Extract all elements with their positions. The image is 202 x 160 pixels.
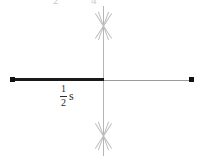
horizontal-axis-right [104, 80, 192, 81]
x-cross-mark-top [92, 12, 116, 38]
segment-label: 1 2 s [60, 84, 74, 108]
segment-unit-label: s [69, 90, 74, 102]
figure-canvas: 2 4 1 2 s [0, 0, 202, 160]
fraction-numerator: 1 [60, 84, 67, 95]
left-endpoint-dot [10, 77, 15, 82]
clipped-top-label-4: 4 [91, 0, 97, 6]
fraction-one-half: 1 2 [60, 84, 67, 108]
x-cross-mark-bottom [92, 122, 116, 148]
clipped-top-label-row: 2 4 [0, 0, 202, 4]
clipped-top-label-2: 2 [53, 0, 59, 6]
right-endpoint-dot [189, 77, 194, 82]
fraction-denominator: 2 [60, 98, 67, 109]
bold-measured-segment [12, 78, 104, 81]
